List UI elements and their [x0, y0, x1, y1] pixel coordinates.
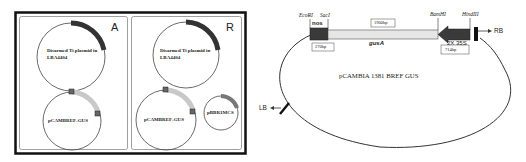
right-border-marker-b — [190, 109, 195, 114]
rb-label: RB — [494, 28, 503, 35]
ecori-label: EcoRI — [299, 13, 313, 19]
right-panel — [270, 18, 511, 147]
panel-a-letter: A — [111, 22, 118, 33]
panel-b-letter: R — [226, 22, 234, 33]
right-border-marker — [95, 111, 100, 116]
left-border-marker — [69, 89, 74, 94]
bamhi-label: BamHI — [430, 12, 446, 18]
lb-border-marker — [280, 103, 289, 114]
nos-label: nos — [312, 20, 323, 26]
panel-a-ti-label-1: Disarmed Ti plasmid in — [47, 48, 97, 53]
lb-label: LB — [259, 105, 267, 112]
rb-arrowhead-icon — [488, 29, 492, 33]
panel-b-helper-label: pBBR1MCS — [207, 110, 234, 115]
panel-b-ti-label-1: Disarmed Ti plasmid in — [160, 48, 210, 53]
left-border-marker-b — [163, 87, 168, 92]
gusa-label: gusA — [369, 40, 384, 46]
promoter-label: 2X 35S — [447, 40, 467, 46]
saci-label: SacI — [320, 13, 330, 19]
hindiii-label: HindIII — [462, 12, 479, 18]
promoter-size-label: 714bp — [445, 48, 456, 53]
lb-arrowhead-icon — [270, 106, 274, 110]
panel-a-ti-label-2: LBA4404 — [47, 55, 67, 60]
figure-canvas — [0, 0, 526, 162]
rb-border-marker — [474, 27, 478, 41]
nos-segment — [310, 28, 328, 40]
gusa-segment — [328, 30, 438, 39]
plasmid-name: pCAMBIA 1381 BREF GUS — [339, 73, 419, 80]
nos-size-label: 270bp — [315, 45, 326, 50]
panel-a-vector-label: pCAMBREF-GUS — [48, 118, 88, 123]
gusa-size-label: 1900bp — [374, 21, 388, 26]
panel-b-vector-label: pCAMBREF-GUS — [144, 117, 184, 122]
panel-b-ti-label-2: LBA4404 — [160, 55, 180, 60]
